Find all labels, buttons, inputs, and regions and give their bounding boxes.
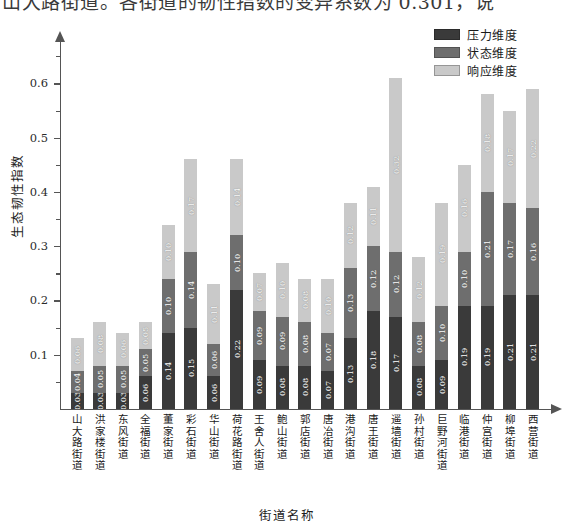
bar-segment[interactable]: 0.17 — [503, 111, 516, 203]
bar-group[interactable]: 0.060.050.05 — [139, 322, 152, 409]
bar-group[interactable]: 0.130.130.12 — [344, 203, 357, 409]
bar-segment[interactable]: 0.04 — [71, 371, 84, 393]
bar-segment[interactable]: 0.12 — [389, 252, 402, 317]
bar-segment-label: 0.13 — [345, 365, 355, 383]
bar-segment[interactable]: 0.21 — [526, 295, 539, 409]
legend-item[interactable]: 压力维度 — [434, 26, 566, 42]
bar-group[interactable]: 0.070.070.10 — [321, 279, 334, 409]
bar-segment[interactable]: 0.14 — [184, 252, 197, 328]
bar-segment[interactable]: 0.07 — [321, 371, 334, 409]
bar-segment[interactable]: 0.08 — [298, 366, 311, 409]
bar-group[interactable]: 0.090.100.19 — [435, 203, 448, 409]
bar-segment[interactable]: 0.10 — [162, 225, 175, 279]
bar-segment[interactable]: 0.14 — [230, 159, 243, 235]
bar-group[interactable]: 0.220.100.14 — [230, 159, 243, 409]
bar-segment[interactable]: 0.08 — [93, 322, 106, 365]
bar-segment[interactable]: 0.17 — [184, 159, 197, 251]
bar-segment-label: 0.19 — [459, 348, 469, 366]
bar-segment[interactable]: 0.10 — [162, 279, 175, 333]
bar-segment-label: 0.19 — [437, 245, 447, 263]
bar-group[interactable]: 0.090.090.07 — [253, 273, 266, 409]
bar-segment[interactable]: 0.18 — [367, 311, 380, 409]
bar-group[interactable]: 0.190.210.18 — [481, 94, 494, 409]
y-axis-tick-label: 0.2 — [14, 293, 48, 307]
y-axis-tick-label: 0.5 — [14, 131, 48, 145]
bar-segment[interactable]: 0.17 — [503, 203, 516, 295]
bar-segment[interactable]: 0.13 — [344, 338, 357, 409]
bar-segment[interactable]: 0.10 — [321, 279, 334, 333]
x-axis-category-label: 柳埠街道 — [503, 414, 516, 460]
bar-group[interactable]: 0.140.100.10 — [162, 225, 175, 410]
x-axis-category-label: 孙村街道 — [412, 414, 425, 460]
bar-segment[interactable]: 0.06 — [116, 333, 129, 366]
bar-segment[interactable]: 0.32 — [389, 78, 402, 252]
bar-group[interactable]: 0.150.140.17 — [184, 159, 197, 409]
bar-segment[interactable]: 0.06 — [207, 344, 220, 377]
bar-segment[interactable]: 0.06 — [139, 376, 152, 409]
bar-segment[interactable]: 0.12 — [344, 203, 357, 268]
bar-segment[interactable]: 0.15 — [184, 328, 197, 409]
bar-segment[interactable]: 0.08 — [276, 366, 289, 409]
bar-segment[interactable]: 0.10 — [230, 235, 243, 289]
bar-segment[interactable]: 0.05 — [139, 349, 152, 376]
bar-segment[interactable]: 0.19 — [458, 306, 471, 409]
legend-item[interactable]: 状态维度 — [434, 44, 566, 60]
bar-segment[interactable]: 0.11 — [367, 187, 380, 247]
bar-group[interactable]: 0.190.100.16 — [458, 165, 471, 409]
bar-segment[interactable]: 0.10 — [458, 252, 471, 306]
bar-segment[interactable]: 0.09 — [253, 360, 266, 409]
x-axis-title: 街道名称 — [0, 505, 573, 524]
bar-segment[interactable]: 0.10 — [276, 263, 289, 317]
bar-segment[interactable]: 0.09 — [276, 317, 289, 366]
bar-group[interactable]: 0.080.080.08 — [298, 279, 311, 409]
bar-group[interactable]: 0.170.120.32 — [389, 78, 402, 409]
bar-group[interactable]: 0.210.160.22 — [526, 89, 539, 409]
bar-segment[interactable]: 0.05 — [139, 322, 152, 349]
bar-group[interactable]: 0.210.170.17 — [503, 111, 516, 409]
bar-segment[interactable]: 0.03 — [116, 393, 129, 409]
bar-segment[interactable]: 0.13 — [344, 268, 357, 339]
bar-segment[interactable]: 0.10 — [435, 306, 448, 360]
bar-group[interactable]: 0.030.050.06 — [116, 333, 129, 409]
bar-group[interactable]: 0.060.060.11 — [207, 284, 220, 409]
bar-segment[interactable]: 0.12 — [412, 257, 425, 322]
bar-group[interactable]: 0.080.090.10 — [276, 263, 289, 410]
bar-segment[interactable]: 0.18 — [481, 94, 494, 192]
bar-segment[interactable]: 0.16 — [526, 208, 539, 295]
bar-group[interactable]: 0.030.040.06 — [71, 338, 84, 409]
bar-segment-label: 0.10 — [232, 253, 242, 271]
bar-segment-label: 0.32 — [391, 156, 401, 174]
bar-segment[interactable]: 0.22 — [526, 89, 539, 208]
bar-segment[interactable]: 0.12 — [367, 246, 380, 311]
stacked-bar-chart: 生态韧性指数 0.10.20.30.40.50.6 0.030.040.060.… — [0, 18, 573, 525]
bar-segment[interactable]: 0.05 — [93, 366, 106, 393]
bar-segment[interactable]: 0.16 — [458, 165, 471, 252]
bar-segment[interactable]: 0.06 — [71, 338, 84, 371]
bar-segment[interactable]: 0.08 — [412, 366, 425, 409]
bar-segment[interactable]: 0.05 — [116, 366, 129, 393]
bar-segment[interactable]: 0.21 — [503, 295, 516, 409]
bar-segment[interactable]: 0.09 — [435, 360, 448, 409]
bar-segment[interactable]: 0.19 — [481, 306, 494, 409]
bar-segment[interactable]: 0.07 — [253, 273, 266, 311]
bar-group[interactable]: 0.180.120.11 — [367, 187, 380, 409]
x-axis-category-label: 巨野河街道 — [435, 414, 448, 472]
bar-segment[interactable]: 0.17 — [389, 317, 402, 409]
bar-segment[interactable]: 0.03 — [93, 393, 106, 409]
bar-segment[interactable]: 0.03 — [71, 393, 84, 409]
legend-item[interactable]: 响应维度 — [434, 62, 566, 78]
bar-segment[interactable]: 0.21 — [481, 192, 494, 306]
bar-segment[interactable]: 0.11 — [207, 284, 220, 344]
bar-segment[interactable]: 0.07 — [321, 333, 334, 371]
bar-group[interactable]: 0.080.080.12 — [412, 257, 425, 409]
bar-segment[interactable]: 0.09 — [253, 311, 266, 360]
bar-segment[interactable]: 0.08 — [412, 322, 425, 365]
bar-segment[interactable]: 0.22 — [230, 290, 243, 409]
bar-segment[interactable]: 0.08 — [298, 322, 311, 365]
bar-segment[interactable]: 0.06 — [207, 376, 220, 409]
y-axis-tick-label: 0.4 — [14, 185, 48, 199]
bar-segment[interactable]: 0.08 — [298, 279, 311, 322]
bar-segment[interactable]: 0.14 — [162, 333, 175, 409]
bar-group[interactable]: 0.030.050.08 — [93, 322, 106, 409]
bar-segment[interactable]: 0.19 — [435, 203, 448, 306]
